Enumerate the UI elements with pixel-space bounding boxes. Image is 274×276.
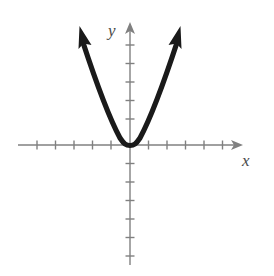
plot-canvas	[0, 0, 274, 276]
x-axis-label: x	[242, 152, 250, 169]
y-axis-label: y	[108, 22, 116, 39]
parabola-figure: y x	[0, 0, 274, 276]
